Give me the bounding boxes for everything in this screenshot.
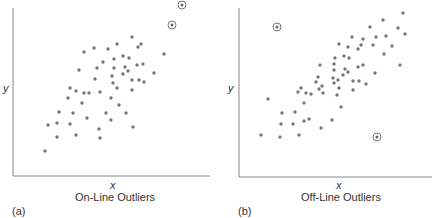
data-point: [101, 60, 104, 63]
data-point: [80, 101, 83, 104]
data-point: [97, 127, 100, 130]
data-point: [318, 63, 321, 66]
data-point: [82, 91, 85, 94]
data-point: [336, 78, 339, 81]
data-point: [331, 76, 334, 79]
data-point: [162, 52, 165, 55]
scatter-plot-b: [216, 0, 432, 218]
data-point: [356, 65, 359, 68]
data-point: [361, 63, 364, 66]
data-point: [43, 149, 46, 152]
data-point: [68, 86, 71, 89]
data-point: [141, 62, 144, 65]
data-point: [55, 121, 58, 124]
data-point: [152, 71, 155, 74]
data-point: [337, 42, 340, 45]
data-point: [115, 42, 118, 45]
data-point: [330, 118, 333, 121]
data-point: [109, 118, 112, 121]
data-point: [357, 79, 360, 82]
outlier-point: [181, 4, 184, 7]
data-point: [302, 101, 305, 104]
data-point: [364, 82, 367, 85]
data-point: [342, 54, 345, 57]
data-point: [111, 81, 114, 84]
axes: [239, 8, 432, 177]
data-point: [316, 75, 319, 78]
data-point: [332, 62, 335, 65]
data-point: [332, 68, 335, 71]
data-point: [398, 63, 401, 66]
data-point: [356, 47, 359, 50]
data-point: [347, 56, 350, 59]
data-point: [82, 50, 85, 53]
data-point: [112, 57, 115, 60]
data-point: [396, 26, 399, 29]
axes: [13, 8, 210, 176]
data-point: [279, 122, 282, 125]
chart-title: On-Line Outliers: [75, 191, 155, 203]
data-point: [74, 133, 77, 136]
data-point: [368, 25, 371, 28]
data-point: [302, 119, 305, 122]
data-point: [321, 91, 324, 94]
data-point: [373, 71, 376, 74]
data-point: [280, 111, 283, 114]
data-point: [361, 37, 364, 40]
data-point: [299, 86, 302, 89]
data-point: [382, 52, 385, 55]
outlier-point: [171, 24, 174, 27]
outlier-point: [376, 136, 379, 139]
data-point: [121, 54, 124, 57]
data-point: [71, 111, 74, 114]
data-point: [139, 42, 142, 45]
data-point: [359, 43, 362, 46]
panel-on-line-outliers: y x On-Line Outliers (a): [0, 0, 216, 218]
data-point: [127, 56, 130, 59]
data-point: [124, 111, 127, 114]
data-point: [123, 65, 126, 68]
data-point: [317, 87, 320, 90]
data-point: [130, 35, 133, 38]
data-point: [341, 73, 344, 76]
panel-off-line-outliers: y x Off-Line Outliers (b): [216, 0, 432, 218]
data-point: [130, 88, 133, 91]
data-point: [142, 80, 145, 83]
chart-title: Off-Line Outliers: [301, 191, 381, 203]
data-point: [332, 81, 335, 84]
scatter-plot-a: [0, 0, 216, 218]
data-point: [74, 89, 77, 92]
data-point: [307, 117, 310, 120]
data-point: [314, 80, 317, 83]
data-point: [346, 70, 349, 73]
data-point: [137, 78, 140, 81]
data-point: [136, 45, 139, 48]
data-point: [343, 67, 346, 70]
x-axis-label: x: [336, 179, 342, 191]
data-point: [110, 74, 113, 77]
data-point: [401, 11, 404, 14]
data-point: [350, 35, 353, 38]
data-point: [390, 44, 393, 47]
data-point: [346, 45, 349, 48]
data-point: [115, 86, 118, 89]
data-point: [309, 92, 312, 95]
data-point: [117, 103, 120, 106]
data-point: [121, 72, 124, 75]
data-point: [374, 35, 377, 38]
data-point: [304, 91, 307, 94]
data-point: [104, 111, 107, 114]
data-point: [135, 63, 138, 66]
data-point: [259, 133, 262, 136]
data-point: [296, 90, 299, 93]
data-point: [66, 96, 69, 99]
data-point: [109, 96, 112, 99]
data-point: [278, 135, 281, 138]
data-point: [351, 88, 354, 91]
data-point: [335, 93, 338, 96]
data-point: [403, 32, 406, 35]
data-point: [291, 122, 294, 125]
data-point: [333, 56, 336, 59]
panel-label: (b): [238, 205, 251, 217]
data-point: [131, 125, 134, 128]
